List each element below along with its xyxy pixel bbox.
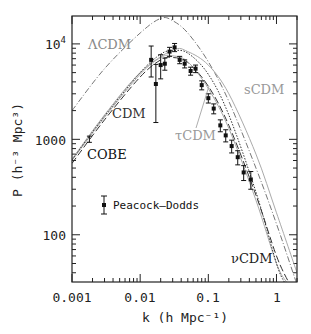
label-lambda-cdm: ΛCDM [87,37,131,52]
power-spectrum-chart: 0.001 0.01 0.1 1 100 1000 104 k (h Mpc⁻¹… [0,0,311,334]
y-tick-10000: 104 [45,35,66,52]
x-tick-1: 1 [273,290,281,305]
tau-cdm-pointer [196,86,209,128]
legend-peacock-dodds: Peacock–Dodds [101,196,199,214]
label-nu-cdm: νCDM [231,251,273,266]
label-cobe: COBE [87,147,127,162]
x-axis-title: k (h Mpc⁻¹) [142,310,228,325]
x-tick-0.01: 0.01 [124,290,155,305]
y-tick-1000: 1000 [35,133,66,148]
y-tick-100: 100 [43,228,66,243]
label-tau-cdm: τCDM [175,128,216,143]
label-cdm: CDM [112,106,146,121]
x-tick-0.1: 0.1 [196,290,219,305]
x-tick-0.001: 0.001 [52,290,91,305]
label-scdm: sCDM [244,82,284,97]
y-axis-title: P (h⁻³ Mpc³) [10,103,25,197]
legend-label: Peacock–Dodds [113,199,199,212]
